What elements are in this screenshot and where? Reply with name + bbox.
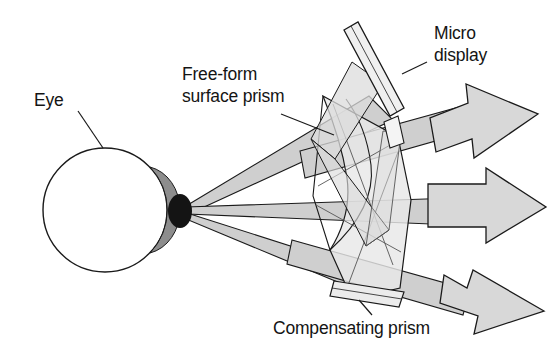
eye — [43, 148, 192, 272]
label-microdisplay-line2: display — [434, 45, 488, 65]
label-freeform-line2: surface prism — [182, 86, 284, 106]
leader-line-microdisplay — [402, 62, 427, 74]
label-eye: Eye — [34, 90, 64, 110]
diagram-canvas: Eye Free-form surface prism Micro displa… — [0, 0, 559, 344]
leader-line-eye — [78, 111, 103, 148]
exit-arrow-upper — [430, 84, 538, 158]
exit-arrow-lower — [440, 270, 544, 334]
label-microdisplay-line1: Micro — [434, 23, 476, 43]
optical-diagram: Eye Free-form surface prism Micro displa… — [0, 0, 559, 344]
label-freeform-line1: Free-form — [182, 64, 257, 84]
eye-pupil — [168, 194, 192, 228]
label-compensating-prism: Compensating prism — [273, 318, 430, 338]
exit-arrows — [428, 84, 546, 334]
eyeball — [43, 148, 167, 272]
exit-arrow-middle — [428, 168, 546, 243]
